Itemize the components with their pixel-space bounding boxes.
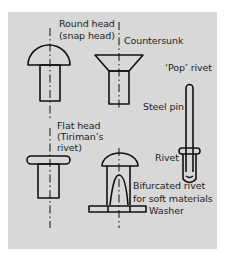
- pop-rivet-icon: [179, 85, 200, 183]
- label-soft-materials: for soft materials: [133, 193, 213, 204]
- flat-head-rivet-icon: [27, 156, 70, 198]
- label-bifurcated: Bifurcated rivet: [133, 180, 205, 191]
- label-washer: Washer: [149, 205, 184, 216]
- label-steel-pin: Steel pin: [143, 101, 184, 112]
- label-flat-head: Flat head: [57, 120, 101, 131]
- label-tiriman-rivet: rivet): [57, 142, 82, 153]
- round-head-rivet-icon: [28, 45, 70, 101]
- washer-icon: [89, 206, 146, 212]
- label-rivet: Rivet: [155, 152, 179, 163]
- label-round-head: Round head: [59, 18, 115, 29]
- label-snap-head: (snap head): [59, 30, 115, 41]
- label-countersunk: Countersunk: [124, 35, 183, 46]
- label-tiriman: (Tiriman’s: [57, 131, 103, 142]
- label-pop-rivet: ‘Pop’ rivet: [165, 62, 212, 73]
